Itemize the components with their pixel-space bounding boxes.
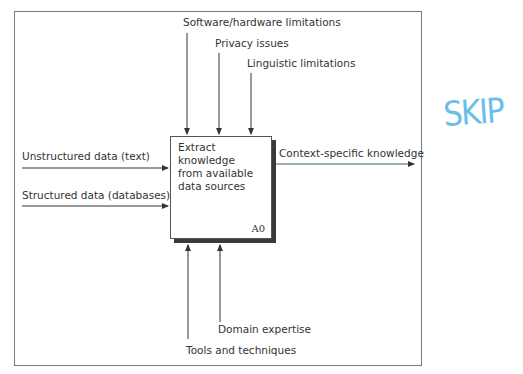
process-box: Extract knowledge from available data so… (170, 136, 272, 239)
process-label: Extract knowledge from available data so… (178, 141, 253, 193)
handwritten-skip-annotation: SKIP (442, 90, 504, 134)
control-label-software: Software/hardware limitations (183, 16, 341, 28)
mechanism-label-domain: Domain expertise (218, 323, 311, 335)
process-id: A0 (251, 223, 265, 234)
input-label-unstructured: Unstructured data (text) (22, 150, 150, 162)
control-label-linguistic: Linguistic limitations (247, 57, 355, 69)
input-label-structured: Structured data (databases) (22, 189, 170, 201)
control-label-privacy: Privacy issues (215, 37, 289, 49)
output-label-knowledge: Context-specific knowledge (279, 147, 424, 159)
mechanism-label-tools: Tools and techniques (186, 344, 296, 356)
